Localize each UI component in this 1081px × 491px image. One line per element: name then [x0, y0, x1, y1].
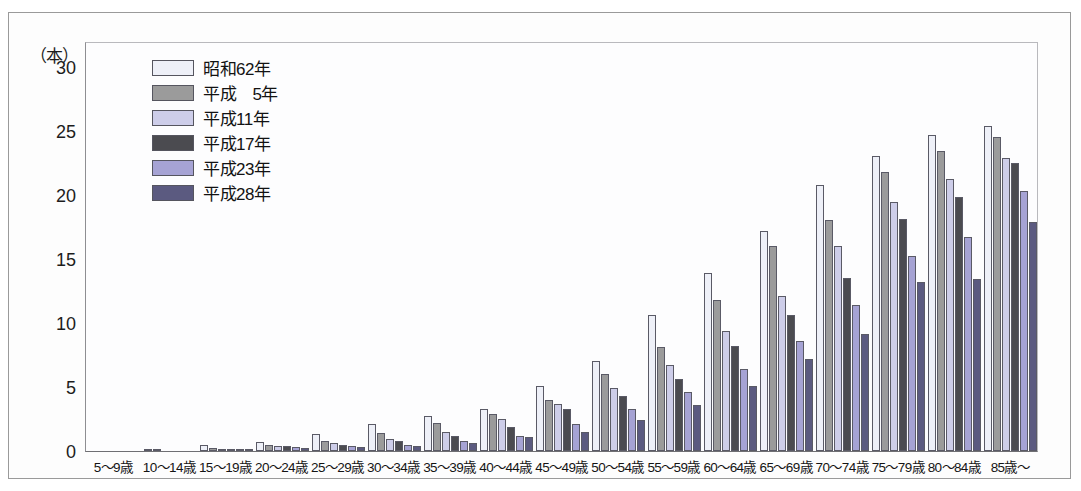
x-tick-label: 25〜29歳 — [311, 456, 363, 476]
bar — [377, 433, 385, 451]
bar-group — [591, 43, 647, 451]
bar — [321, 441, 329, 451]
legend-swatch-icon — [152, 85, 194, 101]
bar — [704, 273, 712, 451]
x-tick-label: 65〜69歳 — [760, 456, 812, 476]
legend-item: 平成23年 — [152, 155, 278, 180]
bar — [301, 448, 309, 451]
bar — [563, 409, 571, 451]
bar — [1029, 222, 1037, 451]
bar — [218, 449, 226, 451]
legend-swatch-icon — [152, 60, 194, 76]
chart-screenshot: （本） 051015202530 5〜9歳10〜14歳15〜19歳20〜24歳2… — [0, 0, 1081, 491]
bar — [424, 416, 432, 451]
bar-group — [871, 43, 927, 451]
bar-group — [759, 43, 815, 451]
bar — [536, 386, 544, 451]
bar — [834, 246, 842, 451]
legend-item: 平成17年 — [152, 130, 278, 155]
bar — [395, 441, 403, 451]
bar — [153, 449, 161, 451]
bar — [236, 449, 244, 451]
bar — [852, 305, 860, 451]
bar — [200, 445, 208, 451]
bar — [937, 151, 945, 451]
bar — [498, 419, 506, 451]
bar — [964, 237, 972, 451]
bar-group — [86, 43, 142, 451]
bar — [693, 405, 701, 451]
x-tick-label: 30〜34歳 — [367, 456, 419, 476]
x-tick-label: 75〜79歳 — [872, 456, 924, 476]
bar — [908, 256, 916, 451]
bar — [413, 446, 421, 451]
bar — [637, 420, 645, 451]
legend-label: 平成17年 — [203, 130, 270, 155]
legend-item: 平成11年 — [152, 105, 278, 130]
bar — [984, 126, 992, 451]
bar — [348, 446, 356, 451]
bar — [554, 404, 562, 451]
bar — [993, 137, 1001, 451]
x-tick-label: 50〜54歳 — [591, 456, 643, 476]
bar — [525, 437, 533, 451]
bar-group — [310, 43, 366, 451]
bar-group — [478, 43, 534, 451]
bar — [601, 374, 609, 451]
bar — [469, 443, 477, 451]
bar — [265, 445, 273, 451]
bar — [749, 386, 757, 451]
chart-legend: 昭和62年平成 5年平成11年平成17年平成23年平成28年 — [152, 55, 278, 205]
x-tick-label: 45〜49歳 — [535, 456, 587, 476]
legend-label: 平成11年 — [203, 105, 269, 130]
x-tick-label: 80〜84歳 — [928, 456, 980, 476]
bar-group — [815, 43, 871, 451]
bar — [796, 341, 804, 451]
legend-item: 平成28年 — [152, 180, 278, 205]
bar — [480, 409, 488, 451]
legend-swatch-icon — [152, 135, 194, 151]
bar — [451, 436, 459, 451]
bar — [1011, 163, 1019, 451]
bar — [227, 449, 235, 451]
bar — [881, 172, 889, 451]
bar — [610, 388, 618, 451]
bar-group — [534, 43, 590, 451]
bar — [619, 396, 627, 451]
bar — [292, 447, 300, 451]
bar — [404, 445, 412, 451]
bar — [928, 135, 936, 451]
bar — [731, 346, 739, 451]
legend-swatch-icon — [152, 160, 194, 176]
bar — [666, 365, 674, 451]
bar — [572, 424, 580, 451]
bar — [917, 282, 925, 451]
bar — [1002, 158, 1010, 451]
bar — [657, 347, 665, 451]
bar — [816, 185, 824, 452]
bar — [955, 197, 963, 451]
bar — [433, 423, 441, 451]
legend-item: 平成 5年 — [152, 80, 278, 105]
bar-group — [647, 43, 703, 451]
x-tick-label: 35〜39歳 — [423, 456, 475, 476]
bar — [946, 179, 954, 451]
legend-label: 昭和62年 — [203, 55, 270, 80]
bar — [357, 447, 365, 451]
legend-swatch-icon — [152, 110, 194, 126]
bar — [684, 392, 692, 451]
bar-group — [366, 43, 422, 451]
y-tick-30: 30 — [28, 57, 76, 78]
y-tick-20: 20 — [28, 185, 76, 206]
bar — [489, 414, 497, 451]
legend-swatch-icon — [152, 185, 194, 201]
bar — [330, 443, 338, 451]
y-tick-25: 25 — [28, 121, 76, 142]
bar — [460, 441, 468, 451]
bar — [507, 427, 515, 451]
bar — [256, 442, 264, 451]
bar — [592, 361, 600, 451]
bar — [825, 220, 833, 451]
bar — [442, 432, 450, 451]
bar — [628, 409, 636, 451]
